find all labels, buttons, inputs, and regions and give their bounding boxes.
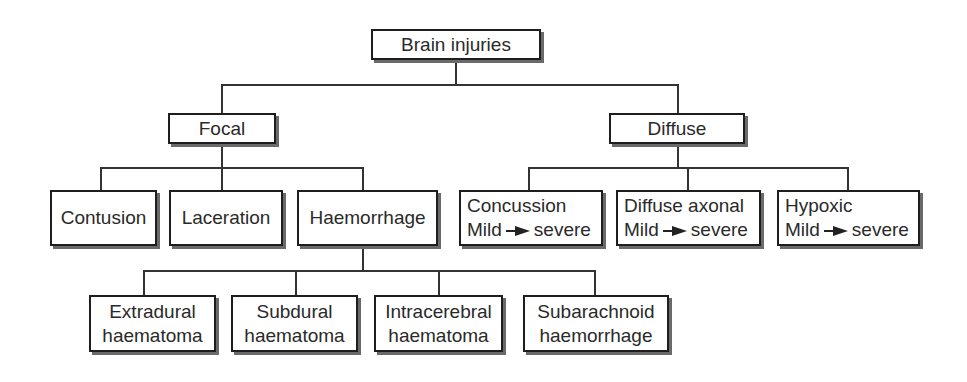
node-label: Diffuse axonal	[624, 194, 744, 218]
connector-to-laceration	[221, 167, 223, 190]
node-label: Hypoxic	[785, 194, 853, 218]
node-focal: Focal	[168, 113, 276, 144]
node-diffuse-axonal: Diffuse axonal Mildsevere	[616, 190, 761, 246]
node-label: Haemorrhage	[309, 206, 425, 230]
node-intracerebral-haematoma: Intracerebral haematoma	[374, 295, 503, 352]
connector-haemorrhage-down	[362, 246, 364, 271]
severity-range: Mildsevere	[785, 218, 909, 242]
right-arrow-icon	[823, 226, 849, 236]
node-label: Laceration	[182, 206, 271, 230]
connector-to-diffuse-axonal	[687, 167, 689, 190]
connector-to-subarachnoid	[594, 270, 596, 295]
node-subarachnoid-haemorrhage: Subarachnoid haemorrhage	[523, 295, 669, 352]
connector-to-concussion	[528, 167, 530, 190]
node-contusion: Contusion	[50, 190, 157, 246]
node-haemorrhage: Haemorrhage	[297, 190, 438, 246]
connector-to-subdural	[295, 270, 297, 295]
node-label: Contusion	[61, 206, 147, 230]
connector-to-focal	[221, 84, 223, 113]
node-label: Brain injuries	[401, 33, 511, 57]
severity-range: Mildsevere	[624, 218, 748, 242]
connector-to-haemorrhage	[362, 167, 364, 190]
node-laceration: Laceration	[169, 190, 283, 246]
connector-focal-down	[221, 144, 223, 168]
node-label: Focal	[199, 117, 245, 141]
node-diffuse: Diffuse	[609, 113, 745, 144]
connector-haemorrhage-horizontal	[143, 270, 595, 272]
connector-focal-horizontal	[100, 167, 363, 169]
connector-diffuse-down	[677, 144, 679, 168]
connector-to-extradural	[143, 270, 145, 295]
node-subdural-haematoma: Subdural haematoma	[231, 295, 358, 352]
right-arrow-icon	[505, 226, 531, 236]
connector-root-horizontal	[221, 84, 678, 86]
node-concussion: Concussion Mildsevere	[459, 190, 603, 246]
connector-root-down	[455, 60, 457, 85]
right-arrow-icon	[662, 226, 688, 236]
severity-range: Mildsevere	[467, 218, 591, 242]
node-hypoxic: Hypoxic Mildsevere	[777, 190, 920, 246]
connector-to-contusion	[100, 167, 102, 190]
connector-to-intracerebral	[438, 270, 440, 295]
connector-to-hypoxic	[847, 167, 849, 190]
node-label: Diffuse	[648, 117, 707, 141]
node-brain-injuries: Brain injuries	[371, 29, 541, 60]
node-extradural-haematoma: Extradural haematoma	[89, 295, 216, 352]
node-label: Concussion	[467, 194, 566, 218]
connector-to-diffuse	[677, 84, 679, 113]
